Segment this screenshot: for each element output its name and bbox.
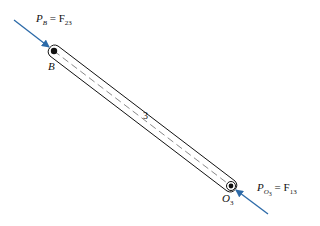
pin-B [51,48,57,54]
force-label-B: PB = F23 [36,12,72,27]
pin-O3 [227,182,236,191]
point-label-B: B [48,60,55,72]
link-number-label: 3 [143,110,148,121]
force-label-O3: PO3 = F13 [257,181,297,198]
point-label-O3: O3 [222,192,233,207]
